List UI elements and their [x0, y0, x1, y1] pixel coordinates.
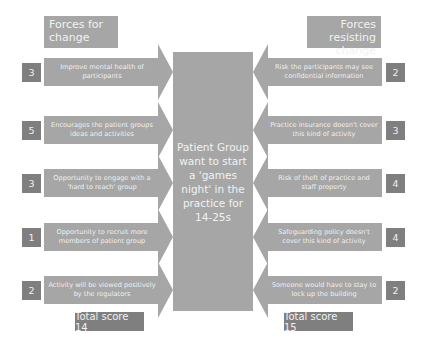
force-for-score: 3 — [22, 63, 41, 82]
force-for-arrow: Encourages the patient groups ideas and … — [44, 102, 173, 158]
force-for-text: Improve mental health of participants — [48, 58, 156, 86]
force-against-text: Risk the participants may see confidenti… — [270, 58, 378, 86]
force-against-score: 2 — [386, 281, 405, 300]
force-against-text: Risk of theft of practice and staff prop… — [270, 169, 378, 197]
force-against-arrow: Safeguarding policy doesn't cover this k… — [253, 209, 382, 265]
force-for-arrow: Improve mental health of participants — [44, 44, 173, 100]
total-score-for: Total score 14 — [75, 312, 144, 331]
force-for-arrow: Opportunity to recruit more members of p… — [44, 209, 173, 265]
center-change-box: Patient Group want to start a 'games nig… — [173, 52, 253, 311]
force-for-score: 1 — [22, 228, 41, 247]
force-against-score: 2 — [386, 63, 405, 82]
force-against-score: 3 — [386, 121, 405, 140]
total-score-against: Total score 15 — [284, 312, 353, 331]
force-for-text: Opportunity to engage with a 'hard to re… — [48, 169, 156, 197]
force-against-arrow: Risk the participants may see confidenti… — [253, 44, 382, 100]
force-for-text: Activity will be viewed positively by th… — [48, 276, 156, 304]
force-against-text: Practice insurance doesn't cover this ki… — [270, 116, 378, 144]
force-against-text: Someone would have to stay to lock up th… — [270, 276, 378, 304]
force-against-score: 4 — [386, 228, 405, 247]
force-for-score: 2 — [22, 281, 41, 300]
force-against-arrow: Practice insurance doesn't cover this ki… — [253, 102, 382, 158]
force-against-arrow: Risk of theft of practice and staff prop… — [253, 155, 382, 211]
force-for-text: Encourages the patient groups ideas and … — [48, 116, 156, 144]
force-against-text: Safeguarding policy doesn't cover this k… — [270, 223, 378, 251]
force-for-arrow: Opportunity to engage with a 'hard to re… — [44, 155, 173, 211]
force-for-score: 3 — [22, 174, 41, 193]
force-against-score: 4 — [386, 174, 405, 193]
force-for-text: Opportunity to recruit more members of p… — [48, 223, 156, 251]
force-for-score: 5 — [22, 121, 41, 140]
center-change-text: Patient Group want to start a 'games nig… — [175, 140, 251, 224]
